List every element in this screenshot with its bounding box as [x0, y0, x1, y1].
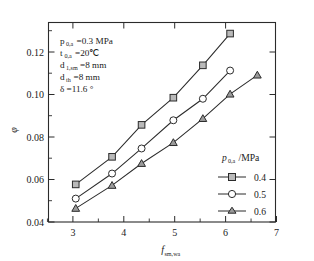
legend-title-symbol: p [221, 152, 227, 163]
legend-label: 0.6 [254, 206, 266, 217]
x-tick-label: 3 [70, 227, 75, 238]
annotation-value: =8 mm [74, 72, 100, 82]
data-point-square [109, 154, 116, 161]
legend-label: 0.5 [254, 189, 266, 200]
x-tick-label: 6 [223, 227, 228, 238]
annotation-value: =0.3 MPa [77, 36, 113, 46]
x-axis-title: f sm,wa [161, 244, 180, 257]
legend-title-rest: /MPa [239, 152, 261, 163]
legend-marker-circle [228, 190, 235, 197]
annotation-subscript: 0,a [65, 53, 73, 59]
legend-title-subscript: 0,a [228, 158, 236, 164]
annotation-symbol: t [60, 48, 63, 58]
x-tick-label: 4 [121, 227, 126, 238]
y-tick-label: 0.04 [27, 217, 45, 228]
annotation-symbol: δ [60, 84, 64, 94]
annotation-symbol: p [60, 36, 65, 46]
data-point-circle [227, 67, 234, 74]
annotation-subscript: th [66, 77, 71, 83]
y-tick-label: 0.12 [27, 47, 45, 58]
data-point-square [138, 122, 145, 129]
data-point-square [200, 62, 207, 69]
x-axis-title-subscript: sm,wa [165, 251, 181, 257]
legend-label: 0.4 [254, 172, 266, 183]
annotation-subscript: 0,a [66, 41, 74, 47]
y-tick-label: 0.06 [27, 174, 45, 185]
data-point-circle [170, 117, 177, 124]
x-tick-label: 7 [274, 227, 279, 238]
data-point-circle [138, 145, 145, 152]
legend-marker-square [229, 174, 236, 181]
y-tick-labels: 0.04 0.06 0.08 0.10 0.12 [27, 47, 45, 228]
data-point-circle [199, 95, 206, 102]
data-point-circle [72, 195, 79, 202]
annotation-value: =8 mm [80, 60, 106, 70]
data-point-square [170, 94, 177, 101]
x-tick-label: 5 [172, 227, 177, 238]
y-tick-label: 0.10 [27, 89, 45, 100]
x-tick-labels: 3 4 5 6 7 [70, 227, 279, 238]
data-point-square [72, 181, 79, 188]
data-point-square [227, 30, 234, 37]
annotation-value: =20℃ [75, 48, 99, 58]
y-axis-title: φ [8, 127, 19, 133]
annotation-value: =11.6 ° [67, 84, 94, 94]
y-tick-label: 0.08 [27, 132, 45, 143]
annotation-symbol: d [60, 60, 65, 70]
annotation-symbol: d [60, 72, 65, 82]
chart-figure: 0.04 0.06 0.08 0.10 0.12 φ 3 4 5 6 7 f s… [0, 0, 314, 261]
annotation-subscript: 1,sm [66, 65, 78, 71]
data-point-circle [109, 170, 116, 177]
